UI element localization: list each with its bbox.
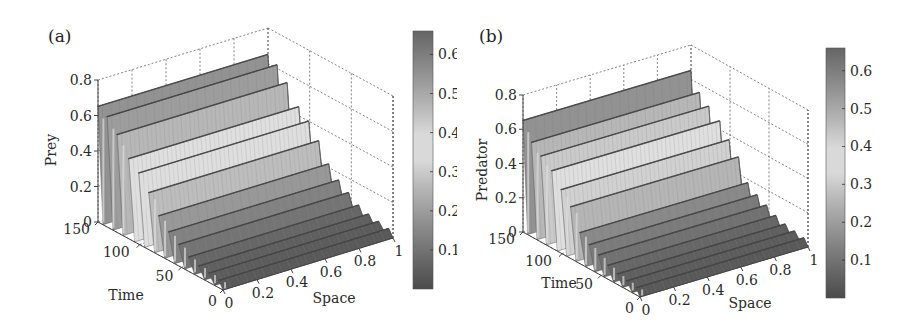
z-tick-label: 0.2 — [70, 179, 92, 195]
space-tick-label: 1 — [810, 252, 819, 268]
space-tick-label: 0.8 — [354, 253, 376, 269]
space-tick-label: 0.4 — [702, 282, 724, 298]
z-tick-label: 0.2 — [495, 190, 517, 206]
time-tick-label: 150 — [488, 231, 515, 247]
colorbar-tick-label: 0.5 — [850, 101, 872, 117]
space-tick-label: 0 — [642, 302, 651, 318]
colorbar: 0.10.20.30.40.50.6 — [826, 48, 872, 298]
z-tick-label: 0.4 — [495, 156, 517, 172]
space-tick-label: 1 — [395, 243, 404, 259]
prey-surface-plot: 00.20.40.60.805010015000.20.40.60.81Prey… — [0, 0, 457, 330]
z-tick-label: 0.6 — [70, 108, 92, 124]
time-tick-label: 0 — [208, 293, 217, 309]
colorbar-tick-label: 0.4 — [850, 138, 872, 154]
z-tick-label: 0.8 — [495, 87, 517, 103]
space-axis-title: Space — [728, 295, 771, 311]
surface — [522, 70, 808, 297]
space-axis-title: Space — [312, 290, 355, 306]
colorbar-tick-label: 0.5 — [438, 86, 457, 102]
time-tick-label: 100 — [525, 253, 552, 269]
colorbar-tick-label: 0.6 — [438, 46, 457, 62]
predator-surface-plot: 00.20.40.60.805010015000.20.40.60.81Pred… — [457, 0, 915, 330]
space-tick-label: 0.8 — [769, 262, 791, 278]
time-tick-label: 50 — [156, 268, 174, 284]
panel-b-predator-plot: (b) 00.20.40.60.805010015000.20.40.60.81… — [457, 0, 915, 330]
space-tick-label: 0.6 — [320, 264, 342, 280]
time-axis-title: Time — [541, 275, 576, 291]
space-tick-label: 0.2 — [668, 292, 690, 308]
space-tick-label: 0.2 — [252, 285, 274, 301]
z-axis-title: Prey — [43, 134, 59, 166]
space-tick-label: 0.4 — [286, 274, 308, 290]
surface — [97, 54, 393, 290]
colorbar-tick-label: 0.1 — [438, 242, 457, 258]
time-tick-label: 150 — [63, 221, 90, 237]
colorbar-tick-label: 0.1 — [850, 252, 872, 268]
colorbar-tick-label: 0.2 — [438, 203, 457, 219]
time-tick-label: 50 — [575, 276, 593, 292]
z-tick-label: 0.6 — [495, 121, 517, 137]
colorbar-tick-label: 0.3 — [850, 176, 872, 192]
colorbar-tick-label: 0.3 — [438, 164, 457, 180]
time-tick-label: 100 — [103, 244, 130, 260]
panel-a-prey-plot: (a) 00.20.40.60.805010015000.20.40.60.81… — [0, 0, 457, 330]
colorbar-tick-label: 0.4 — [438, 125, 457, 141]
space-tick-label: 0 — [225, 295, 234, 311]
colorbar-tick-label: 0.2 — [850, 214, 872, 230]
time-axis-title: Time — [108, 287, 143, 303]
space-tick-label: 0.6 — [736, 272, 758, 288]
time-tick-label: 0 — [625, 300, 634, 316]
z-tick-label: 0.8 — [70, 72, 92, 88]
z-tick-label: 0.4 — [70, 143, 92, 159]
colorbar: 0.10.20.30.40.50.6 — [413, 31, 457, 289]
z-axis-title: Predator — [474, 138, 490, 201]
colorbar-tick-label: 0.6 — [850, 63, 872, 79]
